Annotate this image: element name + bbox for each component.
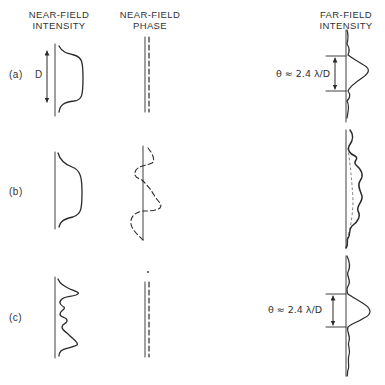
- intensity-curve: [59, 46, 83, 112]
- intensity-curve-multimode: [58, 279, 78, 356]
- phase-dot: [147, 271, 149, 273]
- near-field-intensity-a: [47, 44, 83, 116]
- phase-wavy-dashed: [131, 148, 161, 240]
- aberrated-pattern-curve: [346, 130, 362, 248]
- airy-pattern-curve: [347, 30, 368, 118]
- near-field-phase-c: [145, 271, 149, 357]
- intensity-curve: [58, 153, 82, 227]
- near-field-intensity-c: [55, 277, 78, 358]
- near-field-phase-b: [131, 146, 161, 240]
- far-field-intensity-b: [346, 130, 362, 248]
- far-field-intensity-c: [326, 256, 370, 376]
- diagram-canvas: [0, 0, 385, 385]
- far-field-intensity-a: [326, 30, 368, 122]
- near-field-phase-a: [145, 37, 149, 112]
- near-field-intensity-b: [55, 152, 82, 229]
- far-field-curve: [347, 256, 370, 376]
